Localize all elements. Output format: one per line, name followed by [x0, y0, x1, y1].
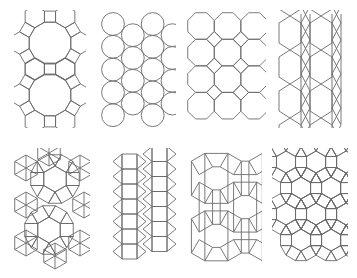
triangle	[143, 177, 152, 192]
square	[341, 235, 348, 246]
triangle	[311, 225, 322, 235]
lattice-spoke	[84, 205, 90, 212]
circle	[121, 92, 144, 115]
square	[331, 194, 346, 209]
hexagon	[14, 32, 29, 54]
triangle	[49, 192, 62, 203]
square	[152, 222, 167, 237]
hexagon	[71, 32, 86, 54]
hexagon	[322, 177, 341, 199]
triangle	[311, 225, 322, 235]
tiling-figure	[0, 0, 357, 278]
square	[286, 246, 301, 261]
lattice-spoke	[44, 256, 55, 263]
triangle	[137, 199, 146, 214]
square	[286, 168, 301, 183]
square	[286, 220, 301, 235]
triangle	[143, 222, 152, 237]
square	[207, 85, 223, 101]
lattice-spoke	[15, 168, 26, 175]
square	[331, 194, 346, 209]
triangle	[272, 168, 276, 178]
triangle	[311, 173, 322, 183]
hexagon	[56, 10, 75, 28]
square	[326, 157, 337, 168]
triangle	[272, 220, 276, 230]
square	[346, 148, 348, 157]
square	[316, 168, 331, 183]
triangle	[113, 229, 122, 244]
lattice-spoke	[55, 250, 66, 257]
square	[341, 183, 348, 194]
triangle	[281, 173, 292, 183]
square	[281, 183, 292, 194]
triangle	[31, 186, 44, 197]
square	[152, 177, 167, 192]
circle	[141, 13, 164, 36]
square	[301, 246, 316, 261]
triangle	[281, 194, 292, 204]
square	[44, 116, 55, 127]
circle	[141, 81, 164, 104]
triangle	[281, 194, 292, 204]
square	[191, 182, 212, 203]
hexagon	[14, 84, 29, 106]
square	[346, 220, 348, 235]
triangle	[326, 168, 337, 178]
hexagon	[276, 151, 295, 173]
square	[331, 220, 346, 235]
square	[311, 235, 322, 246]
elongated-hexagon	[310, 10, 332, 16]
elongated-hexagon	[279, 16, 301, 50]
lattice-edge	[80, 155, 90, 162]
tiling-panel-elongated-triangular	[100, 148, 176, 270]
elongated-hexagon	[279, 10, 301, 16]
triangle	[311, 225, 322, 235]
triangle	[137, 214, 146, 229]
square	[301, 148, 316, 157]
lattice-edge	[84, 192, 90, 199]
square	[286, 194, 301, 209]
hexagon	[25, 10, 44, 28]
square	[122, 199, 137, 214]
lattice-spoke	[15, 199, 26, 206]
hexagon	[307, 203, 326, 225]
square	[20, 22, 35, 37]
lattice-spoke	[15, 205, 26, 212]
tiling-panel-truncated-trihexagonal	[14, 10, 86, 128]
square	[233, 32, 249, 48]
square	[191, 240, 212, 261]
square	[301, 168, 316, 183]
lattice-edge	[73, 212, 84, 219]
square	[65, 101, 80, 116]
square	[65, 22, 80, 37]
circle	[141, 58, 164, 81]
lattice-edge	[15, 155, 26, 162]
tiling-panel-hexagon-square-triangle	[14, 148, 90, 270]
square	[31, 206, 49, 224]
square	[249, 211, 262, 232]
circle	[121, 69, 144, 92]
triangle	[311, 246, 322, 256]
square	[249, 153, 262, 174]
square	[301, 168, 316, 183]
square	[316, 246, 331, 261]
square	[220, 153, 241, 174]
tiling-panel-snub-square	[186, 148, 262, 270]
lattice-edge	[15, 192, 26, 199]
triangle	[296, 220, 307, 230]
square	[316, 168, 331, 183]
lattice-edge	[84, 212, 90, 219]
lattice-spoke	[55, 256, 66, 263]
square	[286, 168, 301, 183]
lattice-edge	[80, 230, 90, 237]
square	[331, 168, 346, 183]
triangle	[296, 148, 307, 157]
square	[20, 101, 35, 116]
triangle	[326, 168, 337, 178]
square	[281, 235, 292, 246]
square	[286, 148, 301, 157]
triangle	[281, 225, 292, 235]
tiling-panel-circle-packing	[100, 10, 176, 128]
triangle	[296, 199, 307, 209]
